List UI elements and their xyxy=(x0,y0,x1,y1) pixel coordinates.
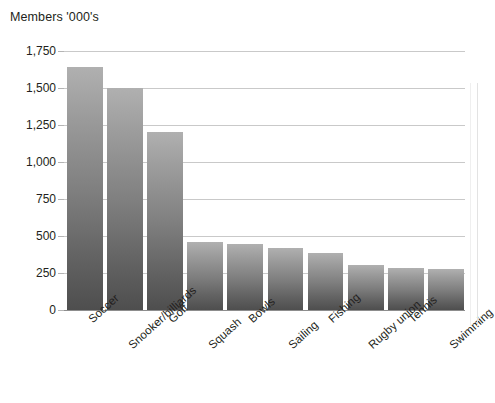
x-axis-tick-label-text: Sailing xyxy=(286,318,320,350)
y-axis-tick-label: 0 xyxy=(4,303,56,317)
y-axis-tick-label: 1,500 xyxy=(4,81,56,95)
bar[interactable] xyxy=(67,67,103,310)
y-axis-tick-label: 750 xyxy=(4,192,56,206)
x-axis-tick-label: Sailing xyxy=(286,318,320,350)
y-axis-tick-label: 1,750 xyxy=(4,44,56,58)
y-axis-tick-label: 250 xyxy=(4,266,56,280)
x-axis-labels: SoccerSnooker/billiardsGolfSquashBowlsSa… xyxy=(64,310,465,403)
x-axis-tick-label: Squash xyxy=(206,315,243,350)
bar[interactable] xyxy=(227,244,263,310)
y-axis-tick-label: 1,000 xyxy=(4,155,56,169)
y-axis-labels: 02505007501,0001,2501,5001,750 xyxy=(0,51,56,310)
page-edge-artifact xyxy=(477,83,478,326)
plot-area xyxy=(64,51,465,310)
bar[interactable] xyxy=(308,253,344,310)
page-edge-artifact-inner xyxy=(470,83,471,326)
bar[interactable] xyxy=(187,242,223,310)
y-axis-tick-label: 500 xyxy=(4,229,56,243)
x-axis-tick-label-text: Squash xyxy=(206,315,243,350)
bars-group xyxy=(64,51,465,310)
chart-title: Members '000's xyxy=(10,10,99,24)
bar[interactable] xyxy=(147,132,183,310)
y-axis-tick-label: 1,250 xyxy=(4,118,56,132)
bar[interactable] xyxy=(107,88,143,310)
